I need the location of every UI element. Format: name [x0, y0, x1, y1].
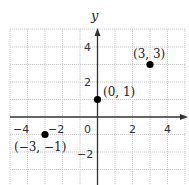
y-axis-arrow-icon — [95, 28, 101, 36]
point-label-neg3-neg1: (−3, −1) — [14, 140, 66, 154]
x-axis-arrow-icon — [180, 114, 188, 120]
point-label-3-3: (3, 3) — [133, 47, 165, 61]
y-tick-2: 2 — [84, 76, 91, 89]
x-tick-2: 2 — [129, 123, 136, 136]
y-tick-neg2: −2 — [77, 148, 93, 161]
point-label-0-1: (0, 1) — [103, 85, 135, 99]
point-neg3-neg1 — [41, 131, 48, 138]
x-tick-neg4: −4 — [13, 123, 29, 136]
point-3-3 — [146, 61, 153, 68]
y-tick-4: 4 — [84, 41, 91, 54]
coordinate-plane: y 4 2 −2 −4 −2 0 2 4 (3, 3) (0, 1) (−3, … — [0, 0, 189, 185]
x-tick-0: 0 — [84, 123, 91, 136]
x-tick-4: 4 — [164, 123, 171, 136]
point-0-1 — [94, 96, 101, 103]
y-axis-label: y — [90, 8, 99, 23]
x-tick-neg2: −2 — [48, 123, 64, 136]
